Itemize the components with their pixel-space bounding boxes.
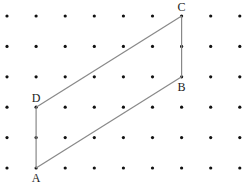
grid-dots (5, 14, 241, 169)
vertex-label-c: C (178, 0, 186, 14)
grid-dot (35, 45, 38, 48)
grid-dot (180, 166, 183, 169)
grid-dot (5, 106, 8, 109)
grid-dot (238, 166, 241, 169)
grid-dot (209, 45, 212, 48)
grid-dot (209, 166, 212, 169)
grid-dot (238, 106, 241, 109)
grid-dot (209, 106, 212, 109)
edge-AB (36, 77, 182, 168)
grid-dot (5, 136, 8, 139)
grid-dot (64, 136, 67, 139)
grid-dot (180, 136, 183, 139)
edge-CD (36, 16, 182, 107)
grid-dot (93, 106, 96, 109)
grid-dot (122, 14, 125, 17)
grid-dot (64, 45, 67, 48)
grid-dot (93, 166, 96, 169)
grid-dot (151, 166, 154, 169)
grid-dot (238, 75, 241, 78)
grid-dot (35, 14, 38, 17)
grid-dot (122, 136, 125, 139)
grid-dot (93, 14, 96, 17)
dot-grid-diagram: ABCD (0, 0, 249, 192)
vertex-label-a: A (32, 171, 41, 185)
grid-dot (180, 106, 183, 109)
grid-dot (93, 136, 96, 139)
grid-dot (209, 136, 212, 139)
grid-dot (5, 45, 8, 48)
grid-dot (151, 75, 154, 78)
grid-dot (151, 45, 154, 48)
grid-dot (35, 75, 38, 78)
grid-dot (122, 106, 125, 109)
grid-dot (93, 75, 96, 78)
grid-dot (122, 166, 125, 169)
grid-dot (64, 14, 67, 17)
parallelogram-edges (36, 16, 182, 168)
grid-dot (64, 75, 67, 78)
grid-dot (151, 106, 154, 109)
grid-dot (151, 14, 154, 17)
grid-dot (209, 14, 212, 17)
grid-dot (238, 45, 241, 48)
grid-dot (238, 136, 241, 139)
grid-dot (122, 75, 125, 78)
grid-dot (209, 75, 212, 78)
grid-dot (64, 166, 67, 169)
vertex-label-d: D (32, 91, 41, 105)
grid-dot (5, 166, 8, 169)
grid-dot (64, 106, 67, 109)
grid-dot (93, 45, 96, 48)
grid-dot (5, 75, 8, 78)
grid-dot (238, 14, 241, 17)
grid-dot (5, 14, 8, 17)
grid-dot (151, 136, 154, 139)
vertex-label-b: B (178, 80, 186, 94)
grid-dot (122, 45, 125, 48)
